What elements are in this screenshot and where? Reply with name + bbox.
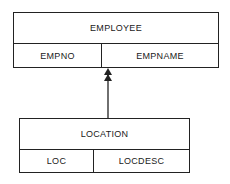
field-loc: LOC bbox=[20, 150, 93, 172]
field-empname: EMPNAME bbox=[102, 44, 218, 67]
relationship-arrow bbox=[104, 68, 112, 118]
location-title: LOCATION bbox=[20, 119, 189, 149]
field-locdesc: LOCDESC bbox=[94, 150, 189, 172]
field-empno: EMPNO bbox=[14, 44, 101, 67]
employee-title: EMPLOYEE bbox=[14, 13, 218, 43]
